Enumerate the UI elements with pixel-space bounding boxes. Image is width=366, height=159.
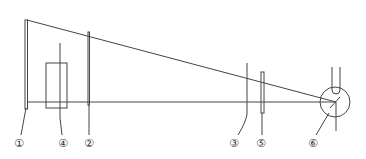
label-3: ③ [229,137,239,150]
upper-ray [27,20,336,102]
block-4 [46,63,67,108]
plate-1 [25,20,28,109]
leader-3 [238,114,247,135]
label-2: ② [84,137,94,150]
label-1: ① [14,137,24,150]
leader-4 [60,118,62,135]
source-6-tube [332,67,340,94]
leader-1 [21,108,26,135]
optical-diagram: ① ④ ② ③ ⑤ ⑥ [0,0,366,159]
leader-6 [316,113,329,135]
label-6: ⑥ [308,137,318,150]
plate-2 [88,32,90,105]
plate-5 [261,72,264,113]
label-4: ④ [58,137,68,150]
label-5: ⑤ [256,137,266,150]
